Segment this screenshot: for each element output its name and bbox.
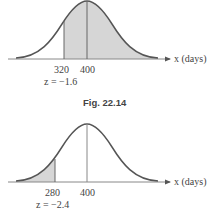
bottom-z-label: z = −2.4 <box>36 200 69 210</box>
bottom-tick-400: 400 <box>80 188 95 198</box>
top-z-label: z = −1.6 <box>44 77 77 87</box>
bottom-tick-280: 280 <box>45 188 60 198</box>
bottom-axis-label: x (days) <box>174 177 207 187</box>
bottom-normal-plot <box>8 124 171 185</box>
top-tick-320: 320 <box>54 65 69 75</box>
top-normal-plot <box>8 1 171 62</box>
normal-curves <box>0 0 219 222</box>
top-tick-400: 400 <box>80 65 95 75</box>
top-axis-label: x (days) <box>174 54 207 64</box>
figure-caption: Fig. 22.14 <box>83 97 126 108</box>
